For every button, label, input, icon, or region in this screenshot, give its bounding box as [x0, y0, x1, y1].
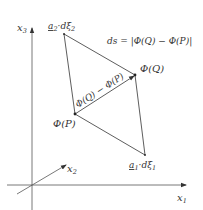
- equation-ds: ds = |Φ(Q) − Φ(P)|: [107, 36, 192, 47]
- x2-axis: [17, 165, 66, 194]
- x1-axis-label: x1: [177, 192, 187, 205]
- x3-axis-label: x3: [17, 22, 27, 35]
- label-diagonal: Φ(Q) − Φ(P): [74, 71, 126, 110]
- x2-axis-label: x2: [67, 163, 77, 176]
- label-a2-dxi2: a2·dξ2: [48, 21, 75, 33]
- coordinate-axes: [7, 28, 186, 210]
- point-q-dot: [134, 74, 137, 77]
- point-p-dot: [74, 113, 77, 116]
- point-a2-dot: [63, 33, 65, 35]
- label-phi-q: Φ(Q): [140, 63, 164, 74]
- parallelogram-diagram: x3 x1 x2 Φ(P) Φ(Q) a2·dξ2 a1·dξ1: [0, 0, 203, 210]
- point-a1-dot: [144, 154, 146, 156]
- label-a1-dxi1: a1·dξ1: [129, 160, 156, 172]
- edge-p-to-a1: [75, 114, 145, 155]
- label-phi-p: Φ(P): [53, 118, 76, 129]
- edge-q-to-a1: [135, 75, 145, 155]
- parallelogram: [64, 34, 145, 155]
